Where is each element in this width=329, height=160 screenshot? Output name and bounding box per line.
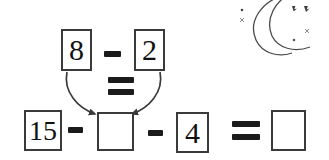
bottom-second-operand-box[interactable]: 4	[176, 112, 209, 153]
star-icon-left	[292, 6, 297, 12]
moon-outer-arc	[254, 0, 292, 55]
top-left-operand-value: 8	[69, 35, 84, 65]
top-right-operand-box[interactable]: 2	[134, 29, 165, 71]
bottom-equals-bar-lower	[232, 134, 260, 140]
arrow-from-8-to-blank	[66, 72, 95, 114]
bottom-second-operand-value: 4	[185, 118, 200, 148]
bottom-equals-sign	[232, 121, 260, 140]
sparkle-dot-lower-right	[293, 39, 295, 41]
top-minus-sign	[104, 51, 121, 57]
top-equals-sign	[108, 77, 134, 95]
sparkle-cross-right	[305, 29, 309, 33]
moon-inner-arc	[270, 0, 310, 50]
bottom-result-blank-box[interactable]	[271, 110, 306, 151]
worksheet-canvas: 8 2 15 4	[0, 0, 329, 160]
crescent-moon-and-stars-decoration	[234, 0, 329, 58]
bottom-first-operand-value: 15	[29, 117, 57, 145]
bottom-answer-blank-box[interactable]	[97, 112, 134, 151]
bottom-first-operand-box[interactable]: 15	[24, 110, 62, 151]
equals-bar-lower	[108, 89, 134, 95]
bottom-second-minus-sign	[148, 130, 163, 136]
arrow-from-2-to-blank	[132, 72, 161, 114]
top-right-operand-value: 2	[142, 35, 157, 65]
equals-bar-upper	[108, 77, 134, 83]
top-left-operand-box[interactable]: 8	[61, 29, 92, 71]
sparkle-cross-left	[240, 18, 244, 22]
star-icon-right	[304, 6, 310, 12]
bottom-equals-bar-upper	[232, 121, 260, 127]
bottom-first-minus-sign	[68, 127, 83, 133]
sparkle-dot-upper-left	[241, 9, 244, 12]
